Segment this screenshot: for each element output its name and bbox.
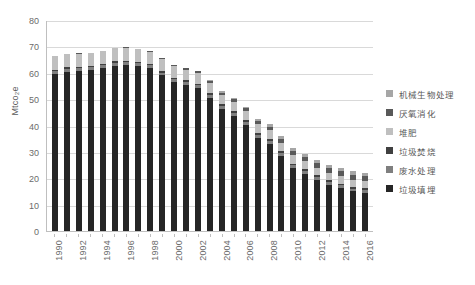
stacked-bar[interactable] (100, 51, 106, 231)
stacked-bar[interactable] (135, 49, 141, 231)
bar-segment[interactable] (52, 56, 58, 69)
bar-column[interactable] (121, 21, 133, 231)
bar-segment[interactable] (135, 49, 141, 62)
stacked-bar[interactable] (362, 173, 368, 231)
stacked-bar[interactable] (207, 80, 213, 231)
bar-segment[interactable] (362, 193, 368, 231)
bar-segment[interactable] (207, 98, 213, 231)
bar-column[interactable] (264, 21, 276, 231)
bar-segment[interactable] (267, 130, 273, 139)
bar-column[interactable] (276, 21, 288, 231)
bar-segment[interactable] (171, 82, 177, 231)
stacked-bar[interactable] (195, 71, 201, 231)
bar-column[interactable] (156, 21, 168, 231)
bar-segment[interactable] (88, 70, 94, 231)
bar-column[interactable] (49, 21, 61, 231)
bar-segment[interactable] (183, 70, 189, 81)
bar-segment[interactable] (76, 54, 82, 67)
legend-item[interactable]: 厌氧消化 (386, 103, 474, 122)
bar-segment[interactable] (183, 85, 189, 231)
stacked-bar[interactable] (255, 119, 261, 231)
bar-column[interactable] (192, 21, 204, 231)
stacked-bar[interactable] (123, 47, 129, 231)
bar-column[interactable] (347, 21, 359, 231)
stacked-bar[interactable] (112, 48, 118, 231)
stacked-bar[interactable] (183, 68, 189, 231)
bar-segment[interactable] (76, 71, 82, 231)
stacked-bar[interactable] (147, 51, 153, 231)
bar-column[interactable] (359, 21, 371, 231)
bar-segment[interactable] (64, 72, 70, 231)
bar-segment[interactable] (207, 83, 213, 93)
stacked-bar[interactable] (88, 53, 94, 231)
bar-column[interactable] (323, 21, 335, 231)
bar-column[interactable] (144, 21, 156, 231)
stacked-bar[interactable] (219, 91, 225, 231)
bar-segment[interactable] (326, 185, 332, 231)
bar-column[interactable] (204, 21, 216, 231)
bar-segment[interactable] (243, 111, 249, 120)
legend-item[interactable]: 垃圾填埋 (386, 179, 474, 198)
bar-segment[interactable] (314, 168, 320, 176)
bar-segment[interactable] (231, 102, 237, 111)
bar-segment[interactable] (64, 54, 70, 67)
legend-item[interactable]: 堆肥 (386, 122, 474, 141)
bar-segment[interactable] (302, 161, 308, 169)
stacked-bar[interactable] (64, 54, 70, 231)
bar-segment[interactable] (159, 59, 165, 71)
bar-column[interactable] (97, 21, 109, 231)
bar-segment[interactable] (219, 109, 225, 231)
bar-column[interactable] (180, 21, 192, 231)
bar-segment[interactable] (147, 52, 153, 64)
bar-segment[interactable] (362, 181, 368, 188)
stacked-bar[interactable] (243, 107, 249, 231)
stacked-bar[interactable] (231, 98, 237, 231)
bar-segment[interactable] (171, 66, 177, 77)
bar-segment[interactable] (112, 66, 118, 231)
stacked-bar[interactable] (159, 58, 165, 231)
bar-segment[interactable] (326, 173, 332, 180)
bar-segment[interactable] (338, 188, 344, 231)
bar-segment[interactable] (135, 66, 141, 231)
bar-column[interactable] (228, 21, 240, 231)
bar-segment[interactable] (350, 180, 356, 187)
bar-segment[interactable] (147, 68, 153, 231)
stacked-bar[interactable] (314, 160, 320, 231)
bar-column[interactable] (73, 21, 85, 231)
bar-segment[interactable] (123, 65, 129, 231)
bar-segment[interactable] (314, 180, 320, 231)
bar-column[interactable] (240, 21, 252, 231)
legend-item[interactable]: 垃圾焚烧 (386, 141, 474, 160)
bar-column[interactable] (85, 21, 97, 231)
stacked-bar[interactable] (52, 56, 58, 231)
stacked-bar[interactable] (302, 154, 308, 231)
bar-segment[interactable] (195, 73, 201, 84)
bar-column[interactable] (109, 21, 121, 231)
bar-segment[interactable] (88, 53, 94, 66)
bar-segment[interactable] (350, 191, 356, 231)
bar-segment[interactable] (255, 138, 261, 231)
stacked-bar[interactable] (278, 136, 284, 231)
bar-segment[interactable] (100, 68, 106, 231)
bar-column[interactable] (311, 21, 323, 231)
bar-segment[interactable] (290, 155, 296, 163)
bar-column[interactable] (252, 21, 264, 231)
stacked-bar[interactable] (350, 171, 356, 231)
bar-column[interactable] (335, 21, 347, 231)
bar-column[interactable] (299, 21, 311, 231)
bar-column[interactable] (168, 21, 180, 231)
bar-segment[interactable] (302, 174, 308, 231)
bar-segment[interactable] (159, 75, 165, 231)
stacked-bar[interactable] (338, 168, 344, 231)
bar-segment[interactable] (338, 176, 344, 183)
legend-item[interactable]: 机械生物处理 (386, 84, 474, 103)
bar-segment[interactable] (243, 125, 249, 231)
bar-column[interactable] (132, 21, 144, 231)
bar-segment[interactable] (112, 48, 118, 61)
bar-segment[interactable] (100, 51, 106, 64)
bar-segment[interactable] (267, 144, 273, 231)
bar-segment[interactable] (52, 74, 58, 231)
legend-item[interactable]: 废水处理 (386, 160, 474, 179)
stacked-bar[interactable] (76, 53, 82, 231)
stacked-bar[interactable] (290, 148, 296, 231)
